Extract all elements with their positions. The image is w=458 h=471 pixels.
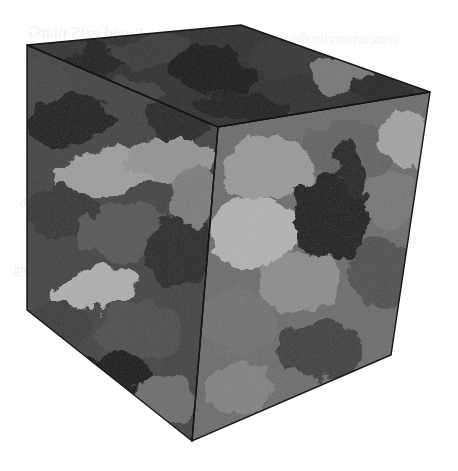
cube-face-right [192, 92, 438, 441]
figure-root: nottudirtsid eziS niarGerutcurtsorcim de… [0, 0, 458, 471]
microstructure-cube [0, 0, 458, 471]
